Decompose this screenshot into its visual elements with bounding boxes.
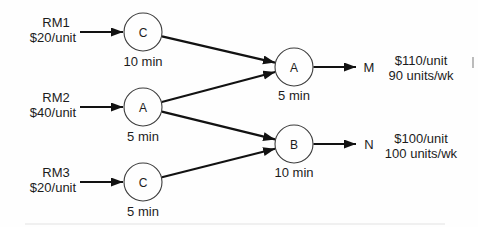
output-m-demand: 90 units/wk (388, 68, 454, 83)
output-n-demand: 100 units/wk (385, 146, 458, 161)
input-rm1: RM1 $20/unit (30, 15, 123, 45)
station-c2-label: C (139, 176, 148, 190)
station-a2-label: A (290, 61, 298, 75)
input-rm2: RM2 $40/unit (30, 90, 123, 120)
station-node-a1: A 5 min (124, 88, 162, 144)
station-a1-time: 5 min (127, 129, 159, 144)
output-n: N $100/unit 100 units/wk (314, 131, 458, 161)
edge-a1-a2 (162, 72, 275, 102)
station-c2-time: 5 min (127, 204, 159, 219)
station-b2-label: B (290, 138, 298, 152)
input-rm2-cost: $40/unit (30, 105, 77, 120)
station-a2-time: 5 min (278, 88, 310, 103)
process-flow-diagram: RM1 $20/unit RM2 $40/unit RM3 $20/unit C… (0, 0, 478, 227)
output-n-product: N (364, 137, 373, 152)
output-m-product: M (364, 60, 375, 75)
diagram-svg: RM1 $20/unit RM2 $40/unit RM3 $20/unit C… (0, 0, 478, 227)
input-rm3-cost: $20/unit (30, 180, 77, 195)
station-node-a2: A 5 min (275, 48, 313, 103)
input-rm1-name: RM1 (42, 15, 69, 30)
edge-c2-b2 (162, 149, 275, 177)
edge-c1-a2 (162, 36, 275, 62)
input-rm3: RM3 $20/unit (30, 165, 123, 195)
output-n-price: $100/unit (394, 131, 448, 146)
output-m: M $110/unit 90 units/wk (314, 53, 455, 83)
station-b2-time: 10 min (274, 165, 313, 180)
input-rm1-cost: $20/unit (30, 30, 77, 45)
station-c1-time: 10 min (123, 54, 162, 69)
station-c1-label: C (139, 26, 148, 40)
station-node-c1: C 10 min (123, 13, 162, 69)
output-m-price: $110/unit (395, 53, 448, 68)
station-node-c2: C 5 min (124, 163, 162, 219)
input-rm2-name: RM2 (42, 90, 69, 105)
edge-a1-b2 (162, 112, 275, 140)
input-rm3-name: RM3 (42, 165, 69, 180)
station-a1-label: A (139, 101, 147, 115)
station-node-b2: B 10 min (274, 125, 313, 180)
